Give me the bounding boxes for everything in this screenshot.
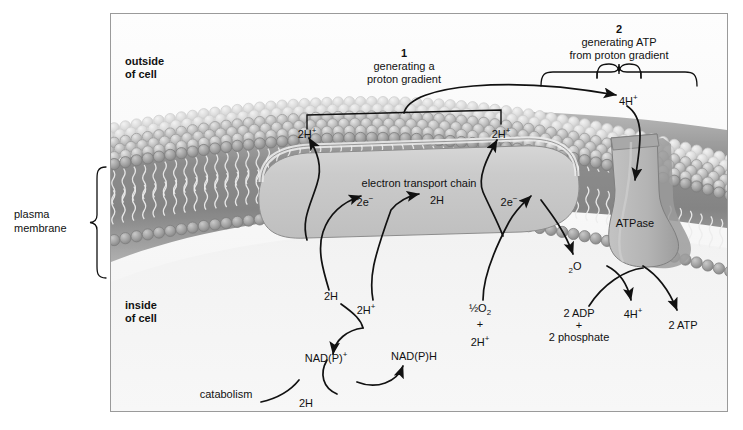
- proton-out-right-label: 2H+: [492, 126, 511, 140]
- adp-plus-sign: +: [576, 319, 582, 331]
- phosphate-label: 2 phosphate: [549, 331, 610, 343]
- step-2-caption: generating ATP from proton gradient: [569, 36, 668, 62]
- proton-inside-left-label: 2H+: [357, 302, 376, 316]
- electrons-right-label: 2e−: [501, 194, 518, 208]
- nad-oxidized-label: NAD(P)+: [305, 350, 348, 364]
- etc-title-label: electron transport chain: [362, 177, 477, 189]
- hydrogen-mid-label: 2H: [430, 194, 444, 206]
- water-label: 2O: [569, 260, 582, 275]
- electrons-left-label: 2e−: [357, 194, 374, 208]
- hydrogen-to-nad-label: 2H: [324, 290, 338, 302]
- diagram-frame: outside of cell inside of cell 1 generat…: [110, 13, 728, 412]
- step-1-caption: generating a proton gradient: [367, 60, 441, 86]
- outside-of-cell-label: outside of cell: [125, 55, 164, 81]
- figure-canvas: outside of cell inside of cell 1 generat…: [0, 0, 743, 430]
- hydrogen-from-catabolism-label: 2H: [299, 397, 313, 409]
- four-protons-inside-label: 4H+: [624, 306, 643, 320]
- plasma-membrane-label: plasma membrane: [14, 207, 67, 235]
- nad-reduced-label: NAD(P)H: [391, 350, 437, 362]
- atp-label: 2 ATP: [668, 319, 697, 331]
- inside-of-cell-label: inside of cell: [125, 299, 157, 325]
- step-2-number: 2: [616, 23, 622, 35]
- plus-sign-oxygen: +: [477, 318, 483, 330]
- four-protons-outside-label: 4H+: [619, 93, 638, 107]
- step-1-number: 1: [401, 47, 407, 59]
- atpase-label: ATPase: [616, 217, 654, 229]
- catabolism-label: catabolism: [200, 388, 253, 400]
- plasma-membrane-bracket: [88, 165, 110, 280]
- half-oxygen-label: ½O2: [469, 302, 491, 317]
- proton-out-left-label: 2H+: [298, 126, 317, 140]
- adp-label: 2 ADP: [563, 307, 594, 319]
- proton-inside-right-label: 2H+: [471, 334, 490, 348]
